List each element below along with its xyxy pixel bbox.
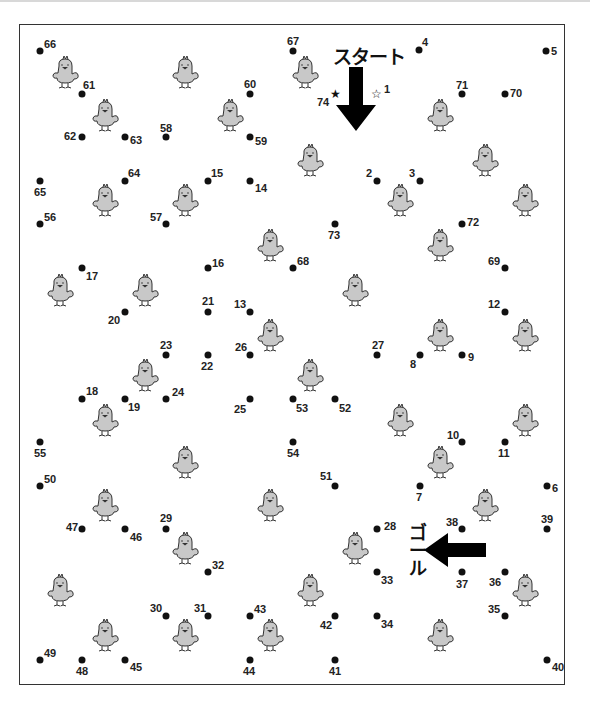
dot-2[interactable]	[374, 178, 381, 185]
dot-number-label: 47	[66, 522, 78, 533]
dot-number-label: 30	[150, 603, 162, 614]
dot-71[interactable]	[459, 91, 466, 98]
dot-49[interactable]	[37, 657, 44, 664]
chick-icon	[293, 357, 327, 393]
dot-29[interactable]	[163, 526, 170, 533]
chick-icon	[423, 617, 457, 653]
dot-number-label: 16	[212, 258, 224, 269]
dot-number-label: 27	[372, 340, 384, 351]
dot-55[interactable]	[37, 439, 44, 446]
dot-number-label: 69	[488, 256, 500, 267]
dot-65[interactable]	[37, 178, 44, 185]
dot-5[interactable]	[543, 48, 550, 55]
dot-43[interactable]	[247, 613, 254, 620]
dot-58[interactable]	[163, 134, 170, 141]
dot-37[interactable]	[459, 569, 466, 576]
dot-63[interactable]	[122, 134, 129, 141]
dot-number-label: 43	[254, 604, 266, 615]
dot-73[interactable]	[332, 221, 339, 228]
dot-57[interactable]	[163, 221, 170, 228]
dot-number-label: 46	[130, 532, 142, 543]
dot-number-label: 62	[64, 131, 76, 142]
dot-28[interactable]	[374, 526, 381, 533]
dot-22[interactable]	[205, 352, 212, 359]
dot-50[interactable]	[37, 483, 44, 490]
dot-42[interactable]	[332, 613, 339, 620]
dot-32[interactable]	[205, 569, 212, 576]
dot-67[interactable]	[290, 48, 297, 55]
dot-number-label: 57	[150, 212, 162, 223]
dot-number-label: 40	[552, 662, 564, 673]
dot-59[interactable]	[247, 134, 254, 141]
dot-54[interactable]	[290, 439, 297, 446]
dot-35[interactable]	[502, 613, 509, 620]
dot-39[interactable]	[544, 526, 551, 533]
dot-number-label: 73	[328, 230, 340, 241]
dot-56[interactable]	[37, 221, 44, 228]
dot-17[interactable]	[79, 265, 86, 272]
dot-number-label: 3	[409, 168, 415, 179]
dot-61[interactable]	[79, 91, 86, 98]
dot-12[interactable]	[502, 309, 509, 316]
dot-70[interactable]	[502, 91, 509, 98]
dot-number-label: 65	[34, 187, 46, 198]
dot-10[interactable]	[459, 439, 466, 446]
dot-13[interactable]	[247, 309, 254, 316]
dot-number-label: 31	[194, 603, 206, 614]
dot-8[interactable]	[417, 352, 424, 359]
dot-number-label: 63	[130, 135, 142, 146]
dot-34[interactable]	[374, 613, 381, 620]
dot-45[interactable]	[122, 657, 129, 664]
dot-47[interactable]	[79, 526, 86, 533]
dot-number-label: 74	[317, 97, 329, 108]
dot-36[interactable]	[502, 569, 509, 576]
dot-44[interactable]	[247, 657, 254, 664]
dot-23[interactable]	[163, 352, 170, 359]
dot-number-label: 18	[86, 386, 98, 397]
dot-9[interactable]	[459, 352, 466, 359]
dot-11[interactable]	[502, 439, 509, 446]
dot-66[interactable]	[37, 48, 44, 55]
dot-6[interactable]	[544, 483, 551, 490]
dot-20[interactable]	[122, 309, 129, 316]
dot-3[interactable]	[417, 178, 424, 185]
dot-60[interactable]	[247, 91, 254, 98]
dot-number-label: 15	[211, 168, 223, 179]
dot-51[interactable]	[332, 483, 339, 490]
dot-72[interactable]	[459, 221, 466, 228]
dot-41[interactable]	[332, 657, 339, 664]
dot-52[interactable]	[332, 396, 339, 403]
dot-number-label: 11	[498, 448, 510, 459]
dot-number-label: 35	[488, 604, 500, 615]
dot-27[interactable]	[374, 352, 381, 359]
dot-number-label: 58	[160, 123, 172, 134]
dot-number-label: 7	[416, 492, 422, 503]
dot-number-label: 6	[552, 483, 558, 494]
dot-26[interactable]	[247, 352, 254, 359]
dot-69[interactable]	[502, 265, 509, 272]
dot-62[interactable]	[79, 134, 86, 141]
dot-number-label: 17	[86, 271, 98, 282]
dot-18[interactable]	[79, 396, 86, 403]
chick-icon	[48, 54, 82, 90]
dot-number-label: 38	[446, 517, 458, 528]
chick-icon	[213, 97, 247, 133]
dot-40[interactable]	[544, 657, 551, 664]
dot-number-label: 4	[422, 37, 428, 48]
dot-38[interactable]	[459, 526, 466, 533]
chick-icon	[168, 444, 202, 480]
dot-48[interactable]	[79, 657, 86, 664]
dot-16[interactable]	[205, 265, 212, 272]
dot-14[interactable]	[247, 178, 254, 185]
chick-icon	[88, 182, 122, 218]
top-divider	[0, 0, 590, 2]
dot-30[interactable]	[163, 613, 170, 620]
dot-33[interactable]	[374, 569, 381, 576]
dot-46[interactable]	[122, 526, 129, 533]
dot-68[interactable]	[290, 265, 297, 272]
dot-21[interactable]	[205, 309, 212, 316]
dot-25[interactable]	[247, 396, 254, 403]
dot-24[interactable]	[163, 396, 170, 403]
start-arrow-down-icon	[336, 67, 376, 131]
dot-7[interactable]	[417, 483, 424, 490]
